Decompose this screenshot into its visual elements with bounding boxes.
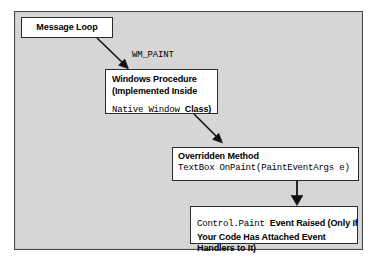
node-windows-procedure-line-3-text: Class) — [185, 104, 211, 114]
node-windows-procedure-line-1: Windows Procedure — [112, 74, 217, 86]
node-windows-procedure-line-3-code: Native Window — [112, 105, 185, 115]
node-control-paint-line-2: Your Code Has Attached Event — [197, 232, 357, 244]
node-control-paint-line-3: Handlers to It) — [197, 243, 357, 255]
node-control-paint-line-1: Control.Paint Event Raised (Only If — [197, 211, 357, 232]
node-message-loop[interactable]: Message Loop — [21, 17, 113, 38]
node-windows-procedure-line-2: (Implemented Inside — [112, 86, 217, 98]
node-overridden-method[interactable]: Overridden Method TextBox OnPaint(PaintE… — [172, 147, 359, 181]
node-message-loop-line-1: Message Loop — [36, 22, 97, 34]
node-control-paint-event[interactable]: Control.Paint Event Raised (Only If Your… — [190, 206, 358, 244]
edge-label-wm-paint: WM_PAINT — [132, 50, 174, 60]
node-control-paint-line-1-code: Control.Paint — [197, 219, 270, 229]
node-control-paint-line-1-text: Event Raised (Only If — [270, 218, 358, 228]
node-overridden-method-line-1: Overridden Method — [178, 151, 358, 163]
node-windows-procedure[interactable]: Windows Procedure (Implemented Inside Na… — [105, 69, 218, 114]
node-windows-procedure-line-3: Native Window Class) — [112, 97, 217, 118]
diagram-canvas: WM_PAINT Message Loop Windows Procedure … — [0, 0, 376, 262]
node-overridden-method-line-2-code: TextBox OnPaint(PaintEventArgs e) — [178, 163, 358, 175]
